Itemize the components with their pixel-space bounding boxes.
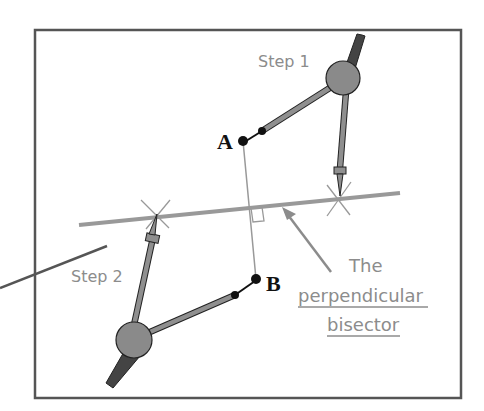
compass-step2 — [106, 214, 255, 388]
note-line-2: perpendicular — [298, 285, 424, 306]
compass-joint — [258, 127, 266, 135]
perpendicular-bisector-diagram: Step 1 Step 2 A B The perpendicular bise… — [0, 0, 484, 411]
diagram-frame — [35, 30, 461, 398]
compass-arm — [262, 84, 336, 131]
point-a-label: A — [217, 129, 233, 154]
note-line-3: bisector — [327, 314, 400, 335]
compass-leg — [134, 242, 152, 325]
arrowhead-icon — [282, 207, 296, 220]
compass-collar — [334, 167, 346, 174]
compass-joint — [231, 291, 239, 299]
bisector-arrow — [285, 211, 331, 272]
step1-label: Step 1 — [258, 52, 310, 71]
compass-arm — [150, 295, 235, 332]
point-b-label: B — [266, 271, 281, 296]
compass-hinge — [326, 61, 360, 95]
compass-leg — [340, 92, 346, 168]
point-a — [238, 136, 248, 146]
note-line-1: The — [348, 255, 382, 276]
pencil-tip — [337, 174, 343, 196]
perpendicular-bisector-line — [79, 193, 400, 225]
point-b — [251, 274, 261, 284]
compass-hinge — [116, 322, 152, 358]
step2-label: Step 2 — [71, 267, 123, 286]
